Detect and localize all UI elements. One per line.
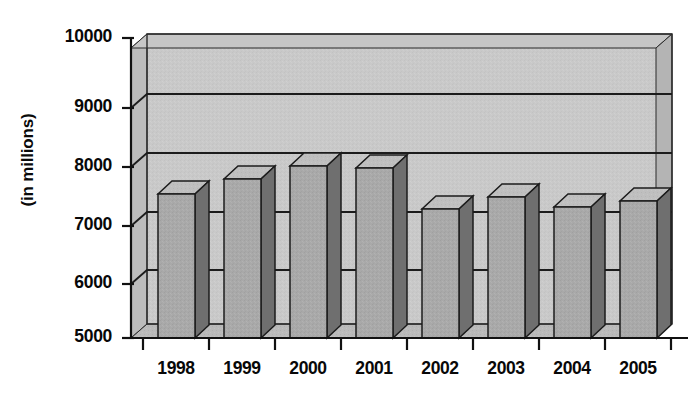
y-tick-7000: 7000 <box>28 216 112 234</box>
bar-2004 <box>554 194 605 338</box>
x-tick-2000: 2000 <box>274 358 342 379</box>
x-tick-2005: 2005 <box>604 358 672 379</box>
y-tick-5000: 5000 <box>28 328 112 346</box>
bar-2000 <box>290 153 341 338</box>
x-tick-2002: 2002 <box>406 358 474 379</box>
bar-1999 <box>224 166 275 338</box>
bar-chart: (in millions) 10000 9000 8000 7000 6000 … <box>0 0 697 401</box>
x-tick-2004: 2004 <box>538 358 606 379</box>
x-tick-2001: 2001 <box>340 358 408 379</box>
y-tick-6000: 6000 <box>28 274 112 292</box>
y-tick-8000: 8000 <box>28 157 112 175</box>
x-tick-marks <box>143 338 671 350</box>
bar-2005 <box>620 188 671 338</box>
bar-2002 <box>422 196 473 338</box>
x-tick-1999: 1999 <box>208 358 276 379</box>
bar-2001 <box>356 155 407 338</box>
bar-2003 <box>488 184 539 338</box>
y-axis-tick-labels: 10000 9000 8000 7000 6000 5000 <box>16 0 112 401</box>
y-tick-10000: 10000 <box>28 28 112 46</box>
x-tick-1998: 1998 <box>142 358 210 379</box>
y-tick-9000: 9000 <box>28 98 112 116</box>
bar-1998 <box>158 181 209 338</box>
x-tick-2003: 2003 <box>472 358 540 379</box>
